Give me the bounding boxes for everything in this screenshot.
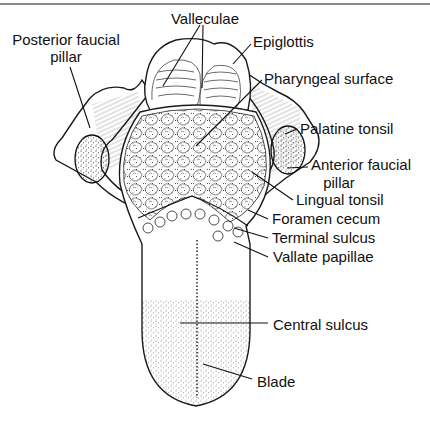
label-epiglottis: Epiglottis: [253, 33, 314, 50]
blade-stipple: [142, 300, 250, 406]
label-anterior-faucial-pillar-line2: pillar: [323, 174, 355, 191]
epiglottis: [145, 39, 251, 112]
label-valleculae: Valleculae: [171, 10, 239, 27]
label-terminal-sulcus: Terminal sulcus: [272, 229, 375, 246]
label-central-sulcus: Central sulcus: [273, 316, 368, 333]
palatine-tonsil-left: [75, 135, 109, 183]
label-anterior-faucial-pillar-line1: Anterior faucial: [311, 156, 411, 173]
tongue-diagram: Valleculae Epiglottis Posterior faucial …: [0, 0, 430, 426]
label-posterior-faucial-pillar-line1: Posterior faucial: [12, 31, 120, 48]
label-vallate-papillae: Vallate papillae: [273, 248, 374, 265]
label-posterior-faucial-pillar-line2: pillar: [50, 48, 82, 65]
label-blade: Blade: [257, 373, 295, 390]
label-lingual-tonsil: Lingual tonsil: [296, 191, 384, 208]
label-pharyngeal-surface: Pharyngeal surface: [264, 70, 393, 87]
label-palatine-tonsil: Palatine tonsil: [300, 120, 393, 137]
label-foramen-cecum: Foramen cecum: [272, 210, 380, 227]
